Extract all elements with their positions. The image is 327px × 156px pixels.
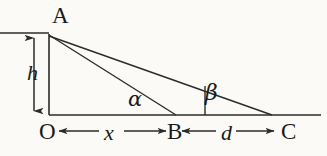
point-label-A: A: [52, 4, 69, 27]
segment-AC: [49, 36, 272, 115]
point-label-O: O: [39, 120, 56, 143]
angle-label-beta: β: [205, 82, 218, 104]
distance-label-x: x: [104, 122, 114, 144]
distance-label-d: d: [221, 122, 232, 144]
height-label-h: h: [27, 62, 38, 84]
geometry-figure: A O B C h x d α β: [0, 0, 327, 156]
point-label-B: B: [167, 120, 182, 143]
segment-AB: [49, 35, 176, 115]
angle-label-alpha: α: [128, 89, 142, 110]
point-label-C: C: [281, 120, 296, 143]
